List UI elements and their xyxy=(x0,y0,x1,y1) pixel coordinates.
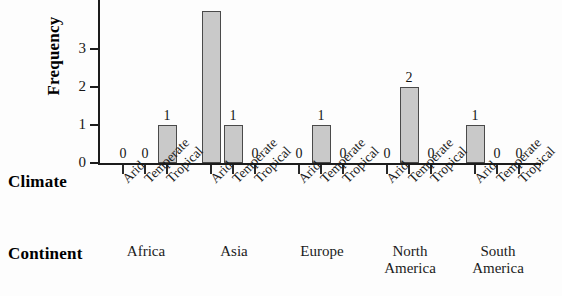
bar-value-label: 1 xyxy=(223,109,243,123)
y-tick-label: 0 xyxy=(60,155,86,170)
y-axis-line xyxy=(98,0,100,164)
continent-label-line: South xyxy=(448,243,548,260)
continent-axis-title: Continent xyxy=(8,244,83,264)
bar-value-label: 2 xyxy=(399,71,419,85)
continent-label-line: Asia xyxy=(184,243,284,260)
y-axis-title: Frequency xyxy=(44,0,64,121)
continent-label-line: Africa xyxy=(96,243,196,260)
continent-label-line: Europe xyxy=(272,243,372,260)
plot-area: 3210 00110010020100 AridTemperateTropica… xyxy=(0,0,562,296)
continent-group-label: Africa xyxy=(96,243,196,260)
y-tick-mark xyxy=(90,162,99,164)
bar xyxy=(224,125,243,163)
bar-value-label: 1 xyxy=(311,109,331,123)
continent-group-label: Europe xyxy=(272,243,372,260)
continent-label-line: America xyxy=(360,260,460,277)
bar xyxy=(312,125,331,163)
bar-value-label: 1 xyxy=(465,109,485,123)
bar xyxy=(202,11,221,163)
continent-label-line: North xyxy=(360,243,460,260)
y-tick-mark xyxy=(90,124,99,126)
bar-value-label: 0 xyxy=(113,147,133,161)
y-tick-mark xyxy=(90,86,99,88)
continent-group-label: Asia xyxy=(184,243,284,260)
bar xyxy=(400,87,419,163)
bar-value-label: 1 xyxy=(157,109,177,123)
bar-chart: 3210 00110010020100 AridTemperateTropica… xyxy=(0,0,562,296)
continent-group-label: SouthAmerica xyxy=(448,243,548,277)
continent-label-line: America xyxy=(448,260,548,277)
y-tick-mark xyxy=(90,48,99,50)
bar xyxy=(466,125,485,163)
continent-group-label: NorthAmerica xyxy=(360,243,460,277)
climate-axis-title: Climate xyxy=(8,172,67,192)
